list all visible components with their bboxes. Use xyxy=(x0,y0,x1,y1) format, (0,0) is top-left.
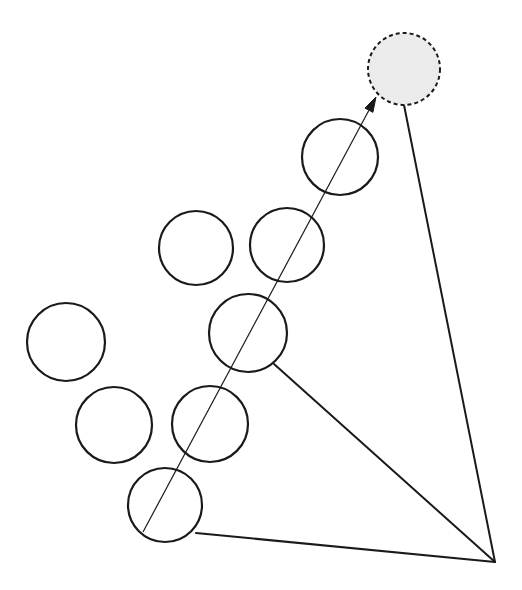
edge-circle4-to-apex xyxy=(196,533,495,562)
direction-arrow-head-icon xyxy=(365,97,376,112)
diagram-canvas xyxy=(0,0,522,590)
circle-8 xyxy=(302,119,378,195)
circle-4 xyxy=(128,468,202,542)
arrows-layer xyxy=(143,97,376,532)
circle-3 xyxy=(172,386,248,462)
circles-layer xyxy=(27,33,440,542)
edges-layer xyxy=(196,105,495,562)
circle-6 xyxy=(250,208,324,282)
circle-7 xyxy=(209,294,287,372)
circle-2 xyxy=(76,387,152,463)
diagram-svg xyxy=(0,0,522,590)
circle-1 xyxy=(27,303,105,381)
direction-arrow-shaft xyxy=(143,110,369,532)
circle-5 xyxy=(159,211,233,285)
target-circle xyxy=(368,33,440,105)
